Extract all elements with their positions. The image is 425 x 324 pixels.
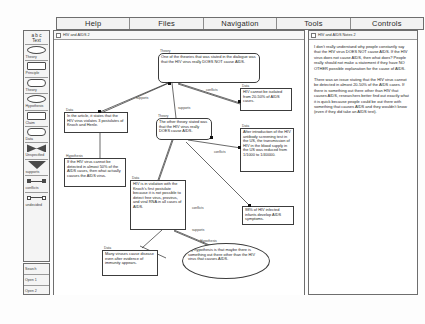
- palette-open-2-button[interactable]: Open 2: [24, 286, 49, 296]
- node-data-hiv-not-isolated[interactable]: HIV cannot be isolated from 20-50% of AI…: [240, 88, 292, 111]
- palette-item-label: Principle: [25, 71, 49, 75]
- link-label-conflicts: conflicts: [206, 88, 218, 92]
- link-label-conflicts-3: conflicts: [192, 206, 204, 210]
- palette-item-label: Hypothesis: [25, 104, 49, 108]
- palette-item-label: undecided: [25, 203, 49, 207]
- palette-item-label: Claim: [25, 121, 49, 125]
- palette-text-tool-label: Text: [25, 38, 48, 43]
- palette-item-unspecified[interactable]: Unspecified: [25, 143, 48, 159]
- conflicts-link-icon: [26, 176, 47, 186]
- link-label-supports-3: supports: [192, 228, 204, 232]
- map-window-title: HIV and AIDS 2: [63, 33, 90, 37]
- menu-files[interactable]: Files: [130, 18, 203, 29]
- rectangle-shape-icon: [26, 111, 47, 121]
- concept-map-window: HIV and AIDS 2: [53, 30, 305, 295]
- menu-navigation[interactable]: Navigation: [204, 18, 277, 29]
- notes-text-area[interactable]: I don't really understand why people con…: [309, 40, 417, 295]
- palette-item-hypothesis[interactable]: Hypothesis: [25, 94, 48, 110]
- node-hypothesis-something-else[interactable]: My hypothesis is that maybe there is som…: [182, 243, 270, 279]
- tool-palette: a b c Text Theory Principle Theory Hypot…: [23, 30, 50, 262]
- oval-shape-icon: [26, 94, 47, 104]
- menu-controls[interactable]: Controls: [351, 18, 423, 29]
- menu-tools[interactable]: Tools: [277, 18, 350, 29]
- palette-item-theory-round[interactable]: Theory: [25, 78, 48, 94]
- oval-shape-icon: [26, 45, 47, 55]
- link-handle[interactable]: [168, 82, 171, 85]
- notes-window-title: HIV and AIDS Notes 2: [318, 33, 356, 37]
- link-handle[interactable]: [248, 204, 251, 207]
- node-hypothesis-what-causes[interactable]: If the HIV virus cannot be detected in a…: [64, 158, 126, 187]
- rounded-shape-icon: [26, 127, 47, 137]
- notes-window-titlebar[interactable]: HIV and AIDS Notes 2: [309, 31, 417, 40]
- palette-item-theory-oval[interactable]: Theory: [25, 45, 48, 61]
- palette-open-1-button[interactable]: Open 1: [24, 275, 49, 286]
- palette-item-label: Theory: [25, 55, 49, 59]
- palette-item-label: supports: [25, 170, 49, 174]
- link-handle[interactable]: [210, 136, 213, 139]
- palette-item-label: Theory: [25, 88, 49, 92]
- palette-item-label: Data: [25, 137, 49, 141]
- palette-bottom-group: Search Open 1 Open 2: [23, 263, 50, 295]
- link-label-supports-2: supports: [178, 106, 190, 110]
- link-handle[interactable]: [98, 110, 101, 113]
- node-tag: Hypothesis: [200, 239, 217, 243]
- palette-item-conflicts[interactable]: conflicts: [25, 176, 48, 192]
- notes-paragraph: There was an issue stating that the HIV …: [314, 77, 412, 115]
- notes-paragraph: I don't really understand why people con…: [314, 44, 412, 71]
- application-root: Help Files Navigation Tools Controls a b…: [0, 0, 425, 324]
- menu-help[interactable]: Help: [57, 18, 130, 29]
- node-data-first-postulate[interactable]: HIV is in violation with the Knoch's fir…: [130, 180, 186, 230]
- palette-item-principle[interactable]: Principle: [25, 61, 48, 77]
- window-close-icon[interactable]: [56, 33, 61, 38]
- notes-window: HIV and AIDS Notes 2 I don't really unde…: [308, 30, 418, 295]
- node-theory-does-not-cause[interactable]: One of the theories that was stated in t…: [158, 53, 260, 83]
- palette-item-claim[interactable]: Claim: [25, 111, 48, 127]
- map-canvas[interactable]: Theory One of the theories that was stat…: [54, 40, 304, 295]
- palette-item-data[interactable]: Data: [25, 127, 48, 143]
- palette-item-label: conflicts: [25, 186, 49, 190]
- menu-bar: Help Files Navigation Tools Controls: [56, 17, 424, 30]
- link-handle[interactable]: [238, 146, 241, 149]
- palette-item-label: Unspecified: [25, 153, 49, 157]
- rectangle-shape-icon: [26, 61, 47, 71]
- link-handle[interactable]: [238, 100, 241, 103]
- node-data-article-postulates[interactable]: In the article, it states that the HIV v…: [64, 112, 128, 133]
- link-label-conflicts-2: conflicts: [214, 150, 226, 154]
- link-label-supports: supports: [136, 96, 148, 100]
- node-data-many-viruses[interactable]: Many viruses cause disease even after ev…: [102, 250, 158, 276]
- supports-arrow-icon: [26, 160, 47, 170]
- node-data-infants[interactable]: 98% of HIV infected infants develop AIDS…: [242, 206, 294, 225]
- undecided-link-icon: [26, 193, 47, 203]
- node-theory-does-cause[interactable]: The other theory stated was that the HIV…: [156, 118, 212, 140]
- palette-text-tool[interactable]: a b c Text: [25, 32, 48, 45]
- palette-item-undecided[interactable]: undecided: [25, 193, 48, 208]
- window-close-icon[interactable]: [311, 33, 316, 38]
- bowtie-shape-icon: [26, 143, 47, 153]
- rounded-shape-icon: [26, 78, 47, 88]
- node-data-antibody-screening[interactable]: After introduction of the HIV antibody s…: [240, 128, 294, 172]
- palette-search-button[interactable]: Search: [24, 264, 49, 275]
- map-window-titlebar[interactable]: HIV and AIDS 2: [54, 31, 304, 40]
- palette-item-supports[interactable]: supports: [25, 160, 48, 176]
